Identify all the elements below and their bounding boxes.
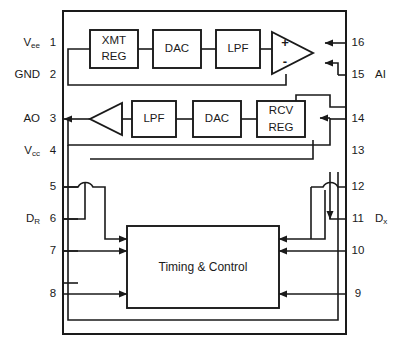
block-xmt-reg-line2: REG: [102, 50, 127, 62]
timing-left-inputs: [63, 251, 127, 294]
pin-number-5: 5: [50, 180, 56, 192]
opamp-minus-label: -: [283, 54, 287, 69]
pin-number-15: 15: [352, 68, 365, 80]
block-rcv-reg-line2: REG: [269, 121, 294, 133]
timing-right-inputs: [279, 251, 346, 294]
pin-number-10: 10: [352, 244, 365, 256]
pin-number-11: 11: [352, 212, 364, 224]
block-lpf-top-label: LPF: [227, 42, 248, 54]
pin-number-13: 13: [352, 144, 365, 156]
timing-to-dx-wire: [279, 190, 325, 239]
pin-number-6: 6: [50, 212, 56, 224]
pin-name-ai: AI: [375, 68, 386, 80]
opamp-input-wires: [325, 43, 346, 75]
pin-name-vee: Vee: [23, 36, 40, 50]
pin-number-4: 4: [50, 144, 57, 156]
block-xmt-reg-line1: XMT: [102, 34, 126, 46]
pin-number-8: 8: [50, 287, 56, 299]
pin-number-12: 12: [352, 180, 365, 192]
diagram-canvas: XMT REG DAC LPF LPF DAC RCV REG Timing &…: [0, 0, 401, 345]
pin-number-16: 16: [352, 36, 365, 48]
pin-name-gnd: GND: [14, 68, 40, 80]
pin-name-dx: Dx: [375, 212, 387, 226]
crossover-hop-left: [63, 182, 127, 239]
pin-name-dr: DR: [26, 212, 40, 226]
crossover-hop-right: [311, 172, 346, 239]
pin-number-9: 9: [355, 287, 361, 299]
pin-number-14: 14: [352, 112, 365, 124]
block-diagram: XMT REG DAC LPF LPF DAC RCV REG Timing &…: [0, 0, 401, 345]
pin-number-1: 1: [50, 36, 56, 48]
output-opamp: [272, 32, 313, 74]
pin-name-vcc: Vcc: [24, 144, 40, 158]
opamp-plus-label: +: [281, 35, 289, 50]
pin-number-2: 2: [50, 68, 56, 80]
block-dac-bottom-label: DAC: [205, 112, 229, 124]
block-rcv-reg-line1: RCV: [269, 104, 294, 116]
pin-number-3: 3: [50, 112, 56, 124]
block-timing-control-label: Timing & Control: [159, 260, 248, 274]
block-lpf-bottom-label: LPF: [143, 112, 164, 124]
pin-ticks-left: [63, 187, 78, 283]
block-dac-top-label: DAC: [165, 42, 189, 54]
pin-number-7: 7: [50, 244, 56, 256]
output-buffer-amp: [90, 103, 122, 135]
pin-name-ao: AO: [23, 112, 40, 124]
